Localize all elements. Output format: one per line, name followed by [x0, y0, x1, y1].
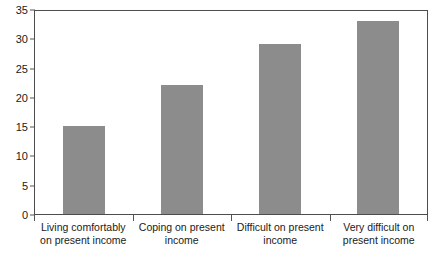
x-axis-category-label: Very difficult onpresent income — [330, 221, 429, 247]
bar — [357, 21, 398, 214]
y-axis-tick-label: 15 — [16, 122, 28, 133]
bar — [63, 126, 104, 214]
y-axis-tick-label: 10 — [16, 151, 28, 162]
bar-slot — [35, 11, 133, 214]
plot-area — [34, 10, 428, 215]
bar — [259, 44, 300, 214]
x-axis-label-line: Living comfortably — [41, 221, 126, 233]
bars-layer — [35, 11, 427, 214]
x-axis-category-label: Coping on presentincome — [133, 221, 232, 247]
y-axis-tick-label: 35 — [16, 5, 28, 16]
y-axis-tick-label: 5 — [22, 180, 28, 191]
x-axis-label-line: Difficult on present — [237, 221, 324, 233]
y-axis-tick-label: 20 — [16, 92, 28, 103]
bar-slot — [329, 11, 427, 214]
bar-chart: 05101520253035 Living comfortablyon pres… — [0, 0, 437, 264]
y-axis-tick-label: 25 — [16, 63, 28, 74]
x-axis-label-line: on present income — [35, 234, 132, 247]
bar — [161, 85, 202, 214]
y-axis-tick-label: 0 — [22, 210, 28, 221]
y-axis: 05101520253035 — [0, 10, 28, 215]
x-axis-labels: Living comfortablyon present incomeCopin… — [34, 221, 428, 247]
x-axis-category-label: Living comfortablyon present income — [34, 221, 133, 247]
bar-slot — [133, 11, 231, 214]
x-axis-category-label: Difficult on presentincome — [231, 221, 330, 247]
x-axis-label-line: Coping on present — [139, 221, 225, 233]
x-axis-label-line: income — [134, 234, 231, 247]
x-axis-label-line: Very difficult on — [343, 221, 414, 233]
bar-slot — [231, 11, 329, 214]
x-axis-label-line: income — [232, 234, 329, 247]
x-axis-label-line: present income — [331, 234, 428, 247]
y-axis-tick-label: 30 — [16, 34, 28, 45]
